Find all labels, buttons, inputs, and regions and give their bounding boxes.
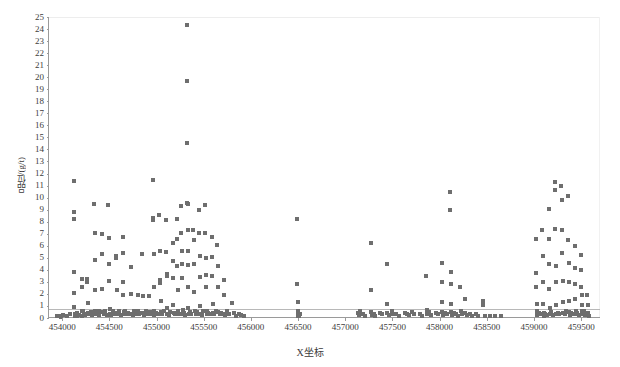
data-point: [204, 273, 208, 277]
data-point: [192, 262, 196, 266]
data-point: [483, 314, 487, 318]
data-point: [222, 293, 226, 297]
data-point: [540, 228, 544, 232]
plot-top-border: [49, 17, 600, 18]
data-point: [210, 255, 214, 259]
y-tick-label: 3: [28, 277, 44, 286]
y-tick-mark: [47, 41, 49, 42]
data-point: [72, 291, 76, 295]
data-point: [176, 288, 180, 292]
x-tick-mark: [345, 318, 346, 321]
y-tick-mark: [47, 246, 49, 247]
y-tick-mark: [47, 161, 49, 162]
data-point: [458, 285, 462, 289]
data-point: [152, 285, 156, 289]
data-point: [198, 275, 202, 279]
data-point: [493, 314, 497, 318]
y-tick-label: 12: [28, 169, 44, 178]
data-point: [72, 270, 76, 274]
data-point: [121, 280, 125, 284]
y-tick-mark: [47, 29, 49, 30]
x-tick-mark: [392, 318, 393, 321]
data-point: [440, 300, 444, 304]
data-point: [86, 301, 90, 305]
data-point: [440, 280, 444, 284]
data-point: [566, 238, 570, 242]
y-tick-mark: [47, 282, 49, 283]
data-point: [152, 252, 156, 256]
data-point: [456, 314, 460, 318]
data-point: [554, 264, 558, 268]
data-point: [573, 297, 577, 301]
data-point: [72, 179, 76, 183]
data-point: [100, 287, 104, 291]
y-tick-mark: [47, 77, 49, 78]
data-point: [579, 268, 583, 272]
y-tick-label: 16: [28, 121, 44, 130]
y-tick-mark: [47, 270, 49, 271]
data-point: [72, 217, 76, 221]
data-point: [180, 262, 184, 266]
data-point: [197, 231, 201, 235]
plot-right-border: [599, 17, 600, 317]
data-point: [579, 253, 583, 257]
data-point: [553, 180, 557, 184]
data-point: [151, 178, 155, 182]
data-point: [448, 208, 452, 212]
data-point: [553, 227, 557, 231]
data-point: [547, 262, 551, 266]
data-point: [534, 271, 538, 275]
x-tick-mark: [204, 318, 205, 321]
data-point: [192, 290, 196, 294]
data-point: [215, 243, 219, 247]
y-tick-label: 18: [28, 97, 44, 106]
y-tick-label: 21: [28, 61, 44, 70]
data-point: [198, 254, 202, 258]
y-tick-mark: [47, 113, 49, 114]
y-tick-label: 15: [28, 133, 44, 142]
data-point: [295, 282, 299, 286]
y-tick-mark: [47, 234, 49, 235]
data-point: [436, 312, 440, 316]
y-tick-label: 1: [28, 301, 44, 310]
y-tick-label: 13: [28, 157, 44, 166]
data-point: [448, 190, 452, 194]
data-point: [171, 241, 175, 245]
data-point: [185, 79, 189, 83]
data-point: [412, 312, 416, 316]
data-point: [175, 264, 179, 268]
data-point: [420, 314, 424, 318]
data-point: [107, 236, 111, 240]
data-point: [560, 198, 564, 202]
data-point: [476, 314, 480, 318]
data-point: [216, 285, 220, 289]
data-point: [72, 305, 76, 309]
data-point: [363, 314, 367, 318]
x-tick-mark: [581, 318, 582, 321]
y-tick-mark: [47, 306, 49, 307]
plot-area: [48, 17, 600, 318]
data-point: [200, 313, 204, 317]
data-point: [566, 194, 570, 198]
data-point: [553, 188, 557, 192]
y-tick-label: 25: [28, 13, 44, 22]
data-point: [554, 280, 558, 284]
data-point: [242, 314, 246, 318]
x-tick-mark: [157, 318, 158, 321]
data-point: [586, 303, 590, 307]
x-tick-label: 459500: [551, 322, 611, 332]
y-tick-mark: [47, 53, 49, 54]
data-point: [68, 312, 72, 316]
data-point: [387, 313, 391, 317]
data-point: [488, 314, 492, 318]
data-point: [296, 300, 300, 304]
data-point: [573, 266, 577, 270]
data-point: [541, 254, 545, 258]
data-point: [580, 303, 584, 307]
data-point: [186, 202, 190, 206]
x-tick-mark: [440, 318, 441, 321]
y-axis-tick-labels: 0123456789101112131415161718192021222324…: [26, 17, 44, 318]
data-point: [216, 264, 220, 268]
y-tick-mark: [47, 65, 49, 66]
y-tick-mark: [47, 149, 49, 150]
